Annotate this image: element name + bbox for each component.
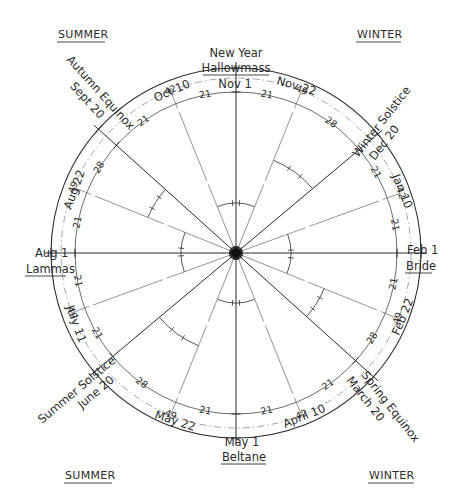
label-line: Aug 1 bbox=[35, 246, 68, 260]
inner-tick bbox=[157, 195, 162, 199]
inner-tick bbox=[288, 258, 294, 259]
inner-number: 21 bbox=[72, 274, 85, 288]
inner-number: 21 bbox=[70, 215, 83, 229]
inner-number: 21 bbox=[387, 277, 400, 291]
season-label-bottom-left: SUMMER bbox=[64, 469, 115, 483]
label-new-year-hallowmass: New Year Hallowmass Nov 1 bbox=[202, 46, 271, 91]
inner-tick bbox=[149, 207, 154, 210]
label-line: Beltane bbox=[222, 450, 266, 464]
spoke-jul11 bbox=[72, 253, 236, 313]
label-line: Bride bbox=[406, 259, 436, 273]
inner-number: 21 bbox=[198, 404, 212, 417]
inner-number: 21 bbox=[198, 87, 212, 100]
inner-arc bbox=[273, 160, 312, 188]
spoke-jan10 bbox=[236, 193, 400, 253]
inner-number: 28 bbox=[134, 374, 150, 390]
inner-tick bbox=[287, 166, 290, 171]
label-line: Nov 1 bbox=[218, 77, 251, 91]
season-text: WINTER bbox=[357, 28, 403, 41]
inner-arc bbox=[307, 289, 324, 317]
inner-number: 28 bbox=[91, 159, 107, 175]
inner-tick bbox=[310, 307, 315, 311]
inner-arc bbox=[159, 317, 198, 345]
inner-number: 21 bbox=[260, 87, 274, 100]
center-hub bbox=[232, 249, 240, 257]
label-line: Feb 1 bbox=[407, 243, 438, 257]
inner-arc bbox=[181, 232, 185, 271]
inner-number: 21 bbox=[320, 376, 336, 392]
season-text: WINTER bbox=[369, 469, 415, 482]
inner-arc bbox=[287, 234, 291, 273]
inner-tick bbox=[178, 248, 184, 249]
label-line: Hallowmass bbox=[202, 61, 271, 75]
label-summer-solstice: Summer Solstice June 20 bbox=[35, 353, 127, 437]
season-label-bottom-right: WINTER bbox=[368, 469, 415, 483]
season-label-top-left: SUMMER bbox=[57, 28, 108, 42]
label-aug1-lammas: Aug 1 Lammas bbox=[25, 246, 75, 276]
spoke-mar20 bbox=[236, 253, 378, 381]
label-line: New Year bbox=[209, 46, 262, 60]
season-label-top-right: WINTER bbox=[356, 28, 403, 42]
spoke-may22 bbox=[170, 253, 236, 415]
label-line: Lammas bbox=[26, 262, 75, 276]
season-text: SUMMER bbox=[58, 28, 108, 41]
inner-number: 21 bbox=[90, 325, 106, 341]
inner-tick bbox=[317, 296, 322, 299]
inner-number: 21 bbox=[260, 404, 274, 417]
inner-tick bbox=[181, 335, 184, 340]
spoke-apr10 bbox=[236, 253, 302, 415]
inner-arc bbox=[148, 189, 165, 217]
label-feb1-bride: Feb 1 Bride bbox=[405, 243, 438, 273]
spoke-oct10 bbox=[170, 91, 236, 253]
inner-number: 21 bbox=[369, 164, 385, 180]
spoke-nov22 bbox=[236, 91, 302, 253]
label-winter-solstice: Winter Solstice Dec 20 bbox=[349, 83, 425, 169]
wheel-of-year-diagram: SUMMER WINTER SUMMER WINTER New Year Hal… bbox=[0, 0, 454, 503]
spoke-sep20 bbox=[94, 125, 236, 253]
season-text: SUMMER bbox=[65, 469, 115, 482]
inner-number: 21 bbox=[389, 218, 402, 232]
label-may1-beltane: May 1 Beltane bbox=[221, 435, 266, 464]
label-autumn-equinox: Autumn Equinox Sept 20 bbox=[53, 53, 138, 143]
label-spring-equinox: Spring Equinox March 20 bbox=[344, 364, 423, 454]
label-line: May 1 bbox=[225, 435, 260, 449]
wheel-svg: SUMMER WINTER SUMMER WINTER New Year Hal… bbox=[0, 0, 454, 503]
inner-number: 28 bbox=[364, 330, 380, 346]
spoke-aug22 bbox=[74, 187, 236, 253]
spoke-feb22 bbox=[236, 253, 398, 319]
